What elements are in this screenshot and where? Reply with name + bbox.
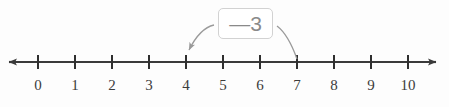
- tick-label-3: 3: [145, 78, 153, 93]
- jump-label-box[interactable]: —3: [218, 8, 273, 39]
- tick-label-5: 5: [219, 78, 227, 93]
- arrow-to-4-icon: [189, 25, 214, 50]
- tick-label-1: 1: [71, 78, 79, 93]
- jump-label-value: —3: [229, 13, 262, 34]
- number-line-diagram: —3 0 1 2 3 4 5 6 7 8 9 10: [0, 0, 449, 107]
- tick-label-9: 9: [367, 78, 375, 93]
- leader-to-7-icon: [277, 26, 297, 59]
- tick-label-0: 0: [34, 78, 42, 93]
- tick-label-4: 4: [182, 78, 190, 93]
- tick-label-10: 10: [401, 78, 416, 93]
- tick-label-7: 7: [293, 78, 301, 93]
- tick-label-6: 6: [256, 78, 264, 93]
- tick-label-8: 8: [330, 78, 338, 93]
- tick-label-2: 2: [108, 78, 116, 93]
